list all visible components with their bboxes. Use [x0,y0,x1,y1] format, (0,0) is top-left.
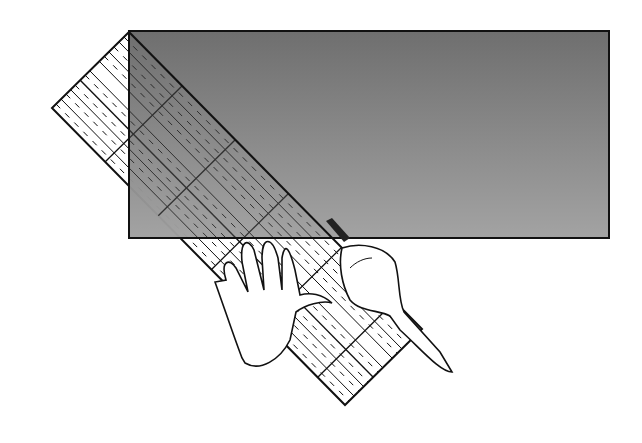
cutting-diagram [0,0,642,443]
